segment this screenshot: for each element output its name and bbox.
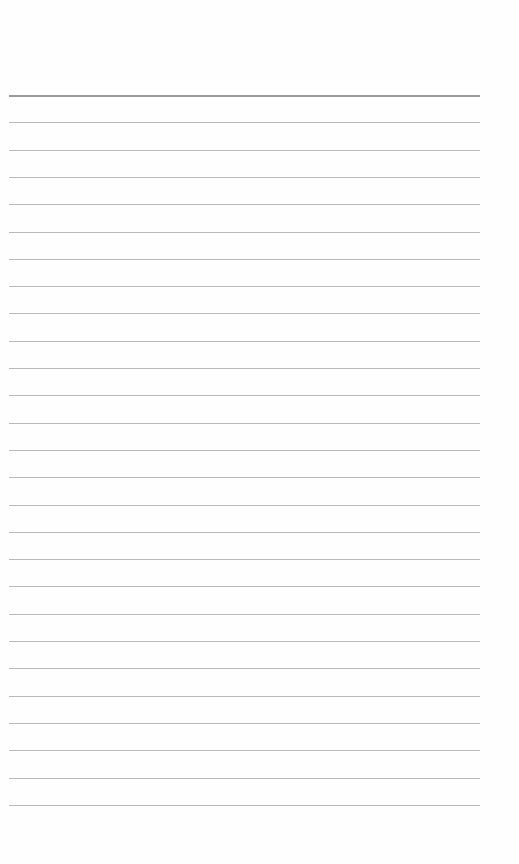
rule-line	[9, 532, 480, 533]
rule-line	[9, 259, 480, 260]
rule-line	[9, 750, 480, 751]
rule-line	[9, 614, 480, 615]
rule-line	[9, 368, 480, 369]
rule-line	[9, 559, 480, 560]
rule-line	[9, 778, 480, 779]
rule-line	[9, 477, 480, 478]
rule-line	[9, 177, 480, 178]
rule-line	[9, 586, 480, 587]
rule-line	[9, 423, 480, 424]
rule-line	[9, 395, 480, 396]
rule-line	[9, 150, 480, 151]
rule-line	[9, 122, 480, 123]
rule-line	[9, 641, 480, 642]
rule-line	[9, 805, 480, 806]
rule-line	[9, 723, 480, 724]
rule-line	[9, 313, 480, 314]
rule-line	[9, 505, 480, 506]
lined-paper-page	[0, 0, 519, 864]
rule-line	[9, 341, 480, 342]
header-rule-line	[9, 95, 480, 97]
rule-line	[9, 450, 480, 451]
rule-line	[9, 668, 480, 669]
rule-line	[9, 204, 480, 205]
rule-line	[9, 232, 480, 233]
rule-line	[9, 286, 480, 287]
rule-line	[9, 696, 480, 697]
